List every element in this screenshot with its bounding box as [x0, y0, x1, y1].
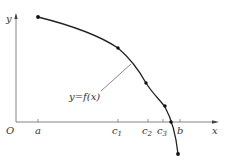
- start-point-a: [36, 15, 40, 19]
- tick-label-c2: c2: [142, 125, 153, 138]
- tick-label-b: b: [177, 125, 183, 136]
- end-point-b: [176, 152, 180, 156]
- point-c1: [116, 46, 119, 49]
- point-c3: [163, 104, 166, 107]
- tick-label-c3: c3: [157, 125, 168, 138]
- root-point: [169, 120, 172, 123]
- tick-label-a: a: [35, 125, 41, 136]
- x-axis-arrow-icon: [212, 120, 219, 124]
- label-leader-line: [101, 64, 131, 91]
- y-axis-label: y: [5, 13, 12, 24]
- x-axis-label: x: [212, 125, 218, 136]
- origin-label: O: [6, 125, 14, 136]
- tick-label-c1: c1: [112, 125, 122, 138]
- curve-label: y=f(x): [68, 91, 100, 102]
- point-c2: [144, 81, 147, 84]
- y-axis-arrow-icon: [14, 13, 17, 19]
- function-graph: y x O a c1 c2 c3 b y=f(x): [0, 0, 226, 168]
